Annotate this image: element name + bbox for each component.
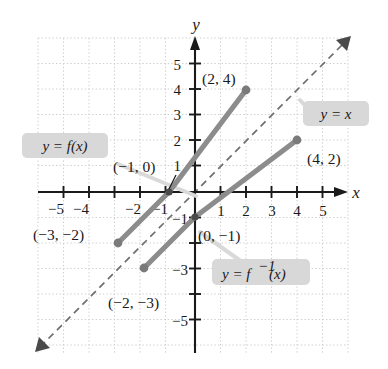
callout-label-finv-head: y = f [220,266,252,282]
y-tick-label--5: −5 [172,313,188,329]
y-tick-label--3: −3 [172,262,188,278]
data-point-4-2 [293,136,302,145]
point-label-2-4: (2, 4) [202,70,236,88]
x-tick-label--5: −5 [48,201,64,217]
point-label--1-0: (−1, 0) [113,158,155,176]
point-label-0--1: (0, −1) [198,227,240,245]
data-point--2--3 [140,264,149,273]
callout-y-equals-f-of-x: y = f(x) [22,133,108,158]
data-point--1-0 [165,188,172,195]
callout-label-f: y = f(x) [40,138,87,155]
point-label--3--2: (−3, −2) [33,226,84,244]
callout-y-equals-f-inverse-of-x: y = f −1 (x) [212,258,310,285]
data-point-2-4 [242,86,251,95]
data-point--3--2 [114,239,123,248]
x-tick-label-2: 2 [242,203,250,219]
x-axis-name: x [351,183,360,202]
data-point-0--1 [191,213,198,220]
figure-canvas: −5 −4 −2 −1 1 2 3 4 5 5 4 3 2 1 −1 −3 −5… [0,0,388,369]
y-tick-label-3: 3 [174,107,182,123]
x-axis-arrowhead [334,187,348,197]
point-label-4-2: (4, 2) [307,150,341,168]
x-tick-label-1: 1 [217,203,225,219]
point-label--2--3: (−2, −3) [108,294,159,312]
x-tick-label--2: −2 [125,201,141,217]
y-tick-label-1: 1 [174,158,182,174]
callout-y-equals-x: y = x [303,101,369,126]
x-tick-label--4: −4 [73,201,89,217]
x-tick-label-5: 5 [319,203,327,219]
x-tick-label-4: 4 [293,203,301,219]
callout-label-finv-tail: (x) [269,266,286,283]
callout-label-identity: y = x [319,106,352,122]
y-tick-label-2: 2 [174,133,182,149]
y-tick-label-4: 4 [174,82,182,98]
y-axis-arrowhead [190,36,200,50]
x-tick-label-3: 3 [268,203,276,219]
y-axis-name: y [190,15,200,34]
y-tick-label-5: 5 [174,57,182,73]
coordinate-graph: −5 −4 −2 −1 1 2 3 4 5 5 4 3 2 1 −1 −3 −5… [0,0,388,369]
